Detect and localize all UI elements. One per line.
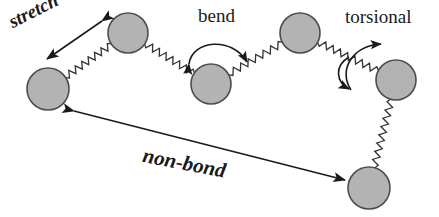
label-bend: bend (198, 6, 235, 25)
atom-3 (191, 64, 231, 104)
stretch-arrow (47, 21, 102, 59)
atom-4 (280, 13, 320, 53)
atom-5 (376, 60, 416, 100)
atom-2 (108, 13, 148, 53)
bend-arrow (189, 44, 247, 64)
atom-6 (348, 167, 390, 209)
bond-2-3 (144, 43, 195, 74)
molecular-force-field-diagram (0, 0, 439, 217)
atom-1 (27, 68, 69, 110)
bond-1-2 (64, 43, 112, 78)
label-torsional: torsional (345, 7, 412, 26)
bond-5-6 (373, 98, 393, 168)
bond-3-4 (228, 42, 284, 76)
diagram-canvas: stretch bend torsional non-bond (0, 0, 439, 217)
